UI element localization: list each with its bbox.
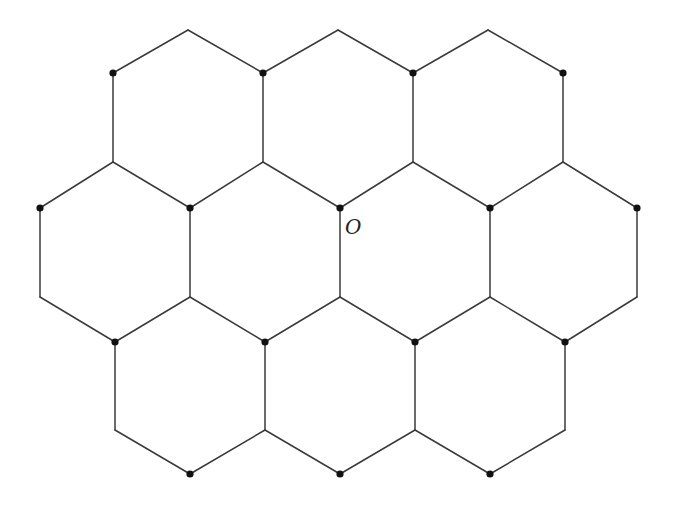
lattice-edge	[338, 30, 413, 73]
lattice-node	[186, 204, 193, 211]
lattice-edge	[488, 30, 563, 73]
lattice-edge	[340, 297, 415, 342]
lattice-node	[261, 338, 268, 345]
lattice-edge	[190, 430, 265, 474]
lattice-edge	[40, 162, 113, 208]
lattice-edge	[263, 162, 340, 208]
lattice-edge	[490, 430, 565, 474]
lattice-edge	[415, 297, 490, 342]
lattice-node	[109, 69, 116, 76]
lattice-edge	[490, 162, 563, 208]
lattice-edge	[565, 297, 637, 342]
origin-label: O	[345, 215, 361, 239]
lattice-edge	[40, 297, 115, 342]
lattice-node	[111, 338, 118, 345]
lattice-edges	[40, 30, 637, 474]
lattice-node	[259, 69, 266, 76]
lattice-edge	[115, 297, 190, 342]
lattice-nodes	[36, 69, 640, 477]
lattice-node	[36, 204, 43, 211]
lattice-edge	[113, 162, 190, 208]
lattice-edge	[340, 162, 413, 208]
lattice-edge	[190, 297, 265, 342]
lattice-edge	[490, 297, 565, 342]
lattice-node	[409, 69, 416, 76]
lattice-edge	[563, 162, 637, 208]
lattice-edge	[113, 30, 188, 73]
lattice-edge	[415, 430, 490, 474]
lattice-node	[186, 470, 193, 477]
lattice-node	[486, 470, 493, 477]
lattice-node	[559, 69, 566, 76]
lattice-node	[561, 338, 568, 345]
lattice-edge	[263, 30, 338, 73]
lattice-node	[411, 338, 418, 345]
lattice-node	[336, 470, 343, 477]
lattice-edge	[115, 430, 190, 474]
lattice-edge	[190, 162, 263, 208]
lattice-edge	[265, 297, 340, 342]
lattice-edge	[265, 430, 340, 474]
lattice-edge	[413, 30, 488, 73]
lattice-edge	[413, 162, 490, 208]
lattice-edge	[340, 430, 415, 474]
origin-node	[336, 204, 343, 211]
lattice-node	[633, 204, 640, 211]
lattice-edge	[188, 30, 263, 73]
hexagonal-lattice-diagram: O	[0, 0, 678, 510]
lattice-node	[486, 204, 493, 211]
